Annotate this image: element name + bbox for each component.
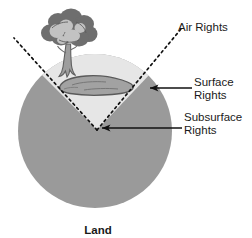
surface-rights-text-line1: Surface (194, 76, 234, 89)
label-surface-rights: Surface Rights (194, 76, 234, 102)
caption-land: Land (0, 224, 196, 237)
subsurface-rights-text-line2: Rights (184, 124, 242, 137)
label-subsurface-rights: Subsurface Rights (184, 111, 242, 137)
tree-branch-left (58, 46, 67, 53)
label-air-rights: Air Rights (178, 21, 228, 34)
surface-rights-text-line2: Rights (194, 89, 234, 102)
diagram-canvas: Air Rights Surface Rights Subsurface Rig… (0, 0, 252, 238)
subsurface-rights-text-line1: Subsurface (184, 111, 242, 124)
air-rights-text: Air Rights (178, 21, 228, 34)
